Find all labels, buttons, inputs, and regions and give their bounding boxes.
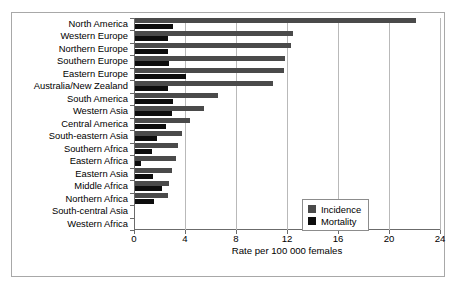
bar-mortality <box>135 136 157 141</box>
bar-mortality <box>135 61 169 66</box>
bar-group <box>134 143 440 155</box>
legend-label: Mortality <box>321 216 356 227</box>
x-tick-label: 8 <box>233 233 238 244</box>
bar-mortality <box>135 111 172 116</box>
x-tick-label: 0 <box>131 233 136 244</box>
bar-mortality <box>135 124 166 129</box>
bar-incidence <box>135 181 169 186</box>
bar-incidence <box>135 18 416 23</box>
legend-swatch <box>308 205 316 213</box>
bar-mortality <box>135 86 168 91</box>
bar-incidence <box>135 43 291 48</box>
category-label: South-eastern Asia <box>49 130 128 142</box>
bar-mortality <box>135 36 168 41</box>
bar-group <box>134 93 440 105</box>
legend-swatch <box>308 217 316 225</box>
bar-chart: North AmericaWestern EuropeNorthern Euro… <box>12 13 444 276</box>
category-label: Northern Africa <box>65 193 128 205</box>
bar-incidence <box>135 156 176 161</box>
category-tick-mark <box>130 230 134 231</box>
gridline <box>440 18 441 230</box>
bar-group <box>134 43 440 55</box>
bar-group <box>134 118 440 130</box>
bar-group <box>134 30 440 42</box>
bar-mortality <box>135 149 152 154</box>
bar-mortality <box>135 174 153 179</box>
category-axis-labels: North AmericaWestern EuropeNorthern Euro… <box>12 18 132 230</box>
bar-group <box>134 18 440 30</box>
bar-incidence <box>135 131 182 136</box>
category-label: South America <box>67 93 128 105</box>
category-label: South-central Asia <box>52 205 128 217</box>
category-label: Australia/New Zealand <box>34 80 128 92</box>
chart-legend: IncidenceMortality <box>302 199 369 231</box>
category-label: Middle Africa <box>74 180 128 192</box>
figure-frame: North AmericaWestern EuropeNorthern Euro… <box>11 12 445 277</box>
bar-mortality <box>135 74 186 79</box>
category-label: Central America <box>61 118 128 130</box>
bar-group <box>134 155 440 167</box>
category-label: Western Africa <box>67 218 128 230</box>
bar-incidence <box>135 193 168 198</box>
bar-incidence <box>135 118 190 123</box>
bar-incidence <box>135 93 218 98</box>
x-tick-label: 16 <box>333 233 344 244</box>
legend-item: Mortality <box>308 215 361 227</box>
legend-item: Incidence <box>308 203 361 215</box>
bar-incidence <box>135 168 172 173</box>
category-label: Eastern Africa <box>70 155 128 167</box>
category-label: Northern Europe <box>59 43 128 55</box>
x-tick-label: 12 <box>282 233 293 244</box>
bar-group <box>134 180 440 192</box>
bar-incidence <box>135 81 273 86</box>
bar-mortality <box>135 99 173 104</box>
bar-mortality <box>135 186 162 191</box>
category-label: Eastern Asia <box>75 168 128 180</box>
plot-area: 04812162024 <box>134 18 440 230</box>
bar-group <box>134 205 440 217</box>
bar-group <box>134 218 440 230</box>
bar-mortality <box>135 49 168 54</box>
bar-incidence <box>135 143 178 148</box>
category-label: Southern Africa <box>64 143 128 155</box>
category-label: Western Europe <box>60 30 128 42</box>
bar-incidence <box>135 56 285 61</box>
bar-incidence <box>135 31 293 36</box>
bar-group <box>134 193 440 205</box>
x-tick-label: 24 <box>435 233 446 244</box>
x-tick-label: 20 <box>384 233 395 244</box>
bar-group <box>134 168 440 180</box>
bar-group <box>134 105 440 117</box>
category-label: North America <box>69 18 128 30</box>
bar-group <box>134 130 440 142</box>
bar-mortality <box>135 24 173 29</box>
bar-incidence <box>135 106 204 111</box>
bar-mortality <box>135 199 154 204</box>
x-axis-title: Rate per 100 000 females <box>134 245 440 256</box>
bar-mortality <box>135 161 141 166</box>
bar-group <box>134 68 440 80</box>
bar-group <box>134 55 440 67</box>
legend-label: Incidence <box>321 204 361 215</box>
category-label: Southern Europe <box>57 55 128 67</box>
x-tick-label: 4 <box>182 233 187 244</box>
bar-incidence <box>135 68 284 73</box>
category-label: Eastern Europe <box>63 68 128 80</box>
bar-group <box>134 80 440 92</box>
category-label: Western Asia <box>73 105 128 117</box>
